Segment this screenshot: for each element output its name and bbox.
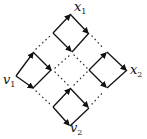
diamond-diagram: x1 x2 v1 v2 bbox=[0, 0, 147, 139]
diamond-top bbox=[53, 14, 89, 52]
label-x1: x1 bbox=[74, 0, 86, 16]
diamond-left bbox=[16, 52, 51, 88]
label-x2: x2 bbox=[130, 62, 142, 79]
label-v2: v2 bbox=[70, 120, 82, 137]
diamond-right bbox=[89, 52, 127, 88]
dotted-connectors bbox=[36, 35, 104, 105]
label-v1: v1 bbox=[3, 72, 15, 89]
